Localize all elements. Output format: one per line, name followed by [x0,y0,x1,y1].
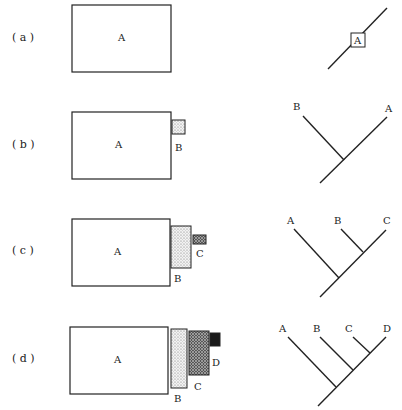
tree-branch [294,229,339,278]
box-label-a: A [113,246,122,257]
box-label-b: B [174,393,181,404]
box-b [171,329,187,388]
row-label-c: ( c ) [12,244,34,257]
row-c: ( c ) A B C A B C [12,215,391,297]
box-label-b: B [174,273,181,284]
tree-branch [341,229,363,252]
tree-label-a: A [278,323,287,334]
tree-label-c: C [345,323,353,334]
tree-branch [320,117,387,183]
tree-label-b: B [293,101,300,112]
row-label-a: ( a ) [12,31,34,44]
tree-label-c: C [383,215,391,226]
box-label-c: C [196,248,204,259]
tree-branch [353,337,370,353]
tree-label-a: A [384,103,393,114]
row-label-b: ( b ) [12,138,35,151]
box-label-a: A [117,32,126,43]
tree-label-b: B [313,323,320,334]
box-label-b: B [175,142,182,153]
tree-branch [320,230,386,297]
tree-label-a: A [353,35,362,46]
box-d [210,333,220,346]
diagram-canvas: ( a ) A A ( b ) A B B A ( c ) A B C A B … [0,0,402,410]
row-label-d: ( d ) [12,352,35,365]
row-b: ( b ) A B B A [12,101,393,183]
tree-branch [318,337,386,406]
box-label-a: A [114,139,123,150]
row-d: ( d ) A B C D A B C D [12,323,391,406]
box-label-c: C [194,381,202,392]
box-b [171,226,191,268]
tree-branch [320,337,353,370]
tree-label-b: B [334,215,341,226]
tree-label-a: A [286,215,295,226]
box-c [189,331,209,375]
row-a: ( a ) A A [12,5,387,72]
box-b [172,120,185,134]
box-label-d: D [212,357,220,368]
tree-branch [303,116,344,160]
tree-branch [288,337,336,387]
tree-label-d: D [383,323,391,334]
box-label-a: A [113,354,122,365]
box-c [193,235,206,244]
